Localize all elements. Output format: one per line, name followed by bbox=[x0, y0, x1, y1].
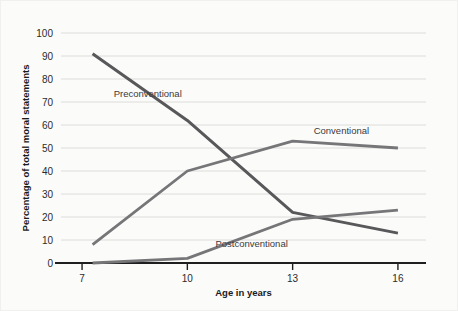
series-line-preconventional bbox=[93, 54, 398, 233]
x-tick-label: 7 bbox=[79, 273, 85, 284]
chart-figure: 0102030405060708090100 7101316 Preconven… bbox=[0, 0, 458, 311]
y-tick-label: 70 bbox=[42, 97, 54, 108]
y-tick-label: 90 bbox=[42, 51, 54, 62]
series-line-conventional bbox=[93, 141, 398, 245]
x-axis-title: Age in years bbox=[215, 287, 272, 298]
y-axis-title: Percentage of total moral statements bbox=[20, 65, 31, 232]
x-axis-tick-marks bbox=[82, 264, 398, 270]
y-tick-label: 50 bbox=[42, 143, 54, 154]
series-label-conventional: Conventional bbox=[314, 125, 369, 136]
y-tick-label: 0 bbox=[47, 258, 53, 269]
y-axis-tick-labels: 0102030405060708090100 bbox=[36, 28, 53, 269]
y-tick-label: 80 bbox=[42, 74, 54, 85]
y-tick-label: 30 bbox=[42, 189, 54, 200]
line-chart: 0102030405060708090100 7101316 Preconven… bbox=[1, 1, 458, 311]
series-label-preconventional: Preconventional bbox=[114, 88, 182, 99]
data-series bbox=[93, 54, 398, 263]
y-tick-label: 60 bbox=[42, 120, 54, 131]
gridlines bbox=[61, 33, 426, 240]
x-axis-tick-labels: 7101316 bbox=[79, 273, 404, 284]
x-tick-label: 10 bbox=[182, 273, 194, 284]
y-tick-label: 20 bbox=[42, 212, 54, 223]
x-tick-label: 13 bbox=[287, 273, 299, 284]
y-tick-label: 100 bbox=[36, 28, 53, 39]
y-tick-label: 10 bbox=[42, 235, 54, 246]
series-line-postconventional bbox=[93, 210, 398, 263]
y-tick-label: 40 bbox=[42, 166, 54, 177]
series-label-postconventional: Postconventional bbox=[215, 238, 287, 249]
x-tick-label: 16 bbox=[392, 273, 404, 284]
